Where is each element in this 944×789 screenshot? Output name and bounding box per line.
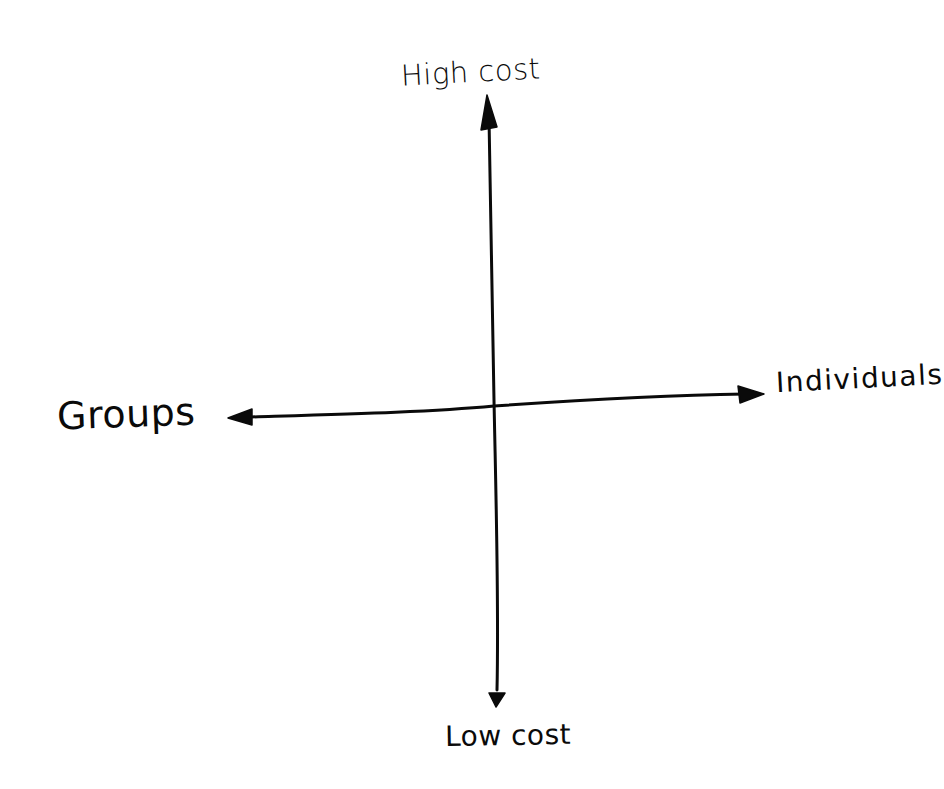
horizontal-axis-line — [250, 394, 745, 417]
arrow-up-icon — [481, 95, 497, 130]
vertical-axis-line — [489, 118, 498, 690]
axis-label-groups: Groups — [56, 393, 196, 436]
axis-label-low-cost: Low cost — [445, 721, 572, 751]
arrow-right-icon — [738, 386, 764, 403]
axis-label-individuals: Individuals — [775, 361, 944, 398]
arrow-left-icon — [228, 409, 252, 425]
arrow-down-icon — [489, 693, 505, 707]
axis-label-high-cost: High cost — [400, 54, 541, 90]
